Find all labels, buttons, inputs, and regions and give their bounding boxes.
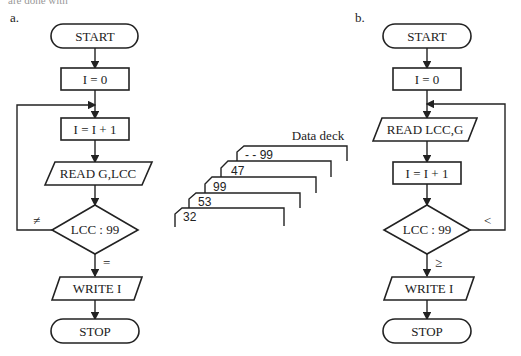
start-label-b: START (407, 29, 446, 44)
increment-label-a: I = I + 1 (74, 122, 117, 137)
top-text-fragment: are done with (8, 0, 68, 6)
increment-label-b: I = I + 1 (406, 166, 449, 181)
flowchart-b-label: b. (355, 10, 365, 25)
svg-text:- - 99: - - 99 (245, 148, 273, 162)
card-1: 32 (175, 208, 284, 227)
card-5: - - 99 (237, 146, 347, 162)
start-label-a: START (75, 29, 114, 44)
svg-text:47: 47 (231, 164, 245, 178)
decision-label-a: LCC : 99 (71, 222, 119, 237)
write-label-a: WRITE I (73, 281, 122, 296)
svg-text:99: 99 (213, 180, 227, 194)
exit-condition-b: ≥ (435, 255, 442, 270)
data-deck-title: Data deck (292, 128, 345, 143)
flowchart-figure: are done with a. START I = 0 I = I + 1 R… (0, 0, 521, 356)
exit-condition-a: = (103, 255, 110, 270)
read-label-b: READ LCC,G (387, 122, 464, 137)
card-4: 47 (221, 161, 331, 178)
svg-text:53: 53 (198, 195, 212, 209)
decision-label-b: LCC : 99 (403, 222, 451, 237)
data-deck: Data deck - - 99 47 99 53 32 (175, 128, 347, 227)
svg-text:32: 32 (183, 210, 197, 224)
loop-condition-a: ≠ (33, 213, 40, 228)
init-label-a: I = 0 (83, 72, 108, 87)
flowchart-a-label: a. (10, 10, 19, 25)
card-2: 53 (189, 193, 300, 209)
loop-condition-b: < (484, 213, 491, 228)
stop-label-b: STOP (411, 324, 443, 339)
card-3: 99 (205, 177, 316, 194)
flowchart-b: b. START I = 0 READ LCC,G I = I + 1 LCC … (355, 10, 505, 343)
write-label-b: WRITE I (405, 281, 454, 296)
flowchart-a: a. START I = 0 I = I + 1 READ G,LCC LCC … (10, 10, 152, 343)
stop-label-a: STOP (79, 324, 111, 339)
read-label-a: READ G,LCC (60, 166, 137, 181)
init-label-b: I = 0 (415, 72, 440, 87)
